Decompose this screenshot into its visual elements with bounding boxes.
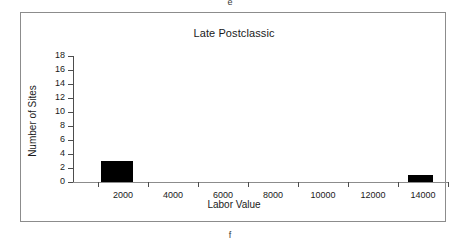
y-tick-mark	[68, 70, 73, 71]
y-tick-label: 6	[60, 134, 65, 145]
y-tick-mark	[68, 168, 73, 169]
panel-letter-bottom: f	[0, 228, 460, 242]
y-tick-mark	[68, 126, 73, 127]
y-tick-label: 2	[60, 162, 65, 173]
x-tick-mark	[148, 182, 149, 187]
y-tick-mark	[68, 140, 73, 141]
x-tick-mark	[398, 182, 399, 187]
x-tick-mark	[248, 182, 249, 187]
y-tick-label: 10	[55, 106, 65, 117]
y-tick-mark	[68, 154, 73, 155]
x-tick-mark	[348, 182, 349, 187]
y-axis-title: Number of Sites	[27, 0, 38, 71]
x-tick-mark	[448, 182, 449, 187]
y-tick-label: 8	[60, 120, 65, 131]
y-tick-mark	[68, 182, 73, 183]
x-tick-mark	[198, 182, 199, 187]
y-tick-label: 4	[60, 148, 65, 159]
y-axis-line	[73, 56, 74, 182]
y-tick-mark	[68, 112, 73, 113]
bar	[408, 175, 433, 182]
x-tick-mark	[98, 182, 99, 187]
y-tick-label: 14	[55, 78, 65, 89]
y-tick-mark	[68, 56, 73, 57]
x-tick-mark	[298, 182, 299, 187]
y-tick-label: 0	[60, 176, 65, 187]
bar	[101, 161, 134, 182]
plot-area: 024681012141618 200040006000800010000120…	[73, 56, 448, 182]
x-axis-line	[73, 182, 448, 183]
y-axis-title-label: Number of Sites	[27, 71, 38, 171]
chart-title: Late Postclassic	[21, 27, 447, 39]
figure-frame: Late Postclassic Number of Sites 0246810…	[20, 12, 446, 222]
y-tick-mark	[68, 98, 73, 99]
panel-letter-top: e	[0, 0, 460, 8]
y-tick-label: 12	[55, 92, 65, 103]
y-tick-mark	[68, 84, 73, 85]
y-tick-label: 16	[55, 64, 65, 75]
y-tick-label: 18	[55, 50, 65, 61]
x-axis-title: Labor Value	[21, 199, 447, 210]
